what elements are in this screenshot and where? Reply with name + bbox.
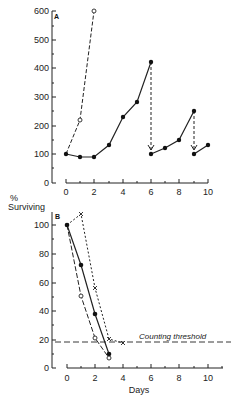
b-ylabel-surviving: Surviving [8, 202, 45, 212]
b-x-tick-4: 4 [120, 373, 125, 383]
figure: 600 500 400 300 200 100 0 0 2 4 6 [0, 0, 231, 397]
panel-b-label: B [55, 213, 60, 220]
b-y-tick-0: 0 [44, 363, 49, 373]
a-y-tick-100: 100 [34, 149, 49, 159]
a-y-tick-300: 300 [34, 92, 49, 102]
a-arrows [148, 62, 197, 150]
a-y-tick-400: 400 [34, 63, 49, 73]
a-series-filled-line-1 [66, 62, 151, 157]
a-x-tick-6: 6 [148, 187, 153, 197]
b-cross-markers [79, 212, 125, 345]
a-filled-markers [64, 60, 210, 159]
b-y-tick-60: 60 [39, 278, 49, 288]
b-x-tick-10: 10 [203, 373, 213, 383]
b-y-tick-40: 40 [39, 306, 49, 316]
b-xlabel-days: Days [129, 385, 150, 395]
b-x-tick-2: 2 [92, 373, 97, 383]
panel-b: % Surviving 100 80 60 40 20 0 [8, 193, 231, 395]
panel-a-y-tick-labels: 600 500 400 300 200 100 0 [34, 6, 49, 188]
b-series-filled-line [67, 225, 109, 354]
a-x-tick-10: 10 [203, 187, 213, 197]
b-y-tick-80: 80 [39, 249, 49, 259]
counting-threshold-label: Counting threshold [139, 332, 207, 341]
a-series-open-line [66, 11, 94, 154]
b-series-cross-line [67, 214, 123, 343]
a-x-tick-0: 0 [63, 187, 68, 197]
panel-a: 600 500 400 300 200 100 0 0 2 4 6 [34, 6, 213, 197]
a-x-tick-8: 8 [176, 187, 181, 197]
panel-b-y-ticks [52, 225, 56, 368]
b-x-tick-8: 8 [176, 373, 181, 383]
b-y-tick-100: 100 [34, 220, 49, 230]
panel-a-label: A [54, 13, 59, 20]
a-y-tick-0: 0 [44, 178, 49, 188]
panel-a-x-tick-labels: 0 2 4 6 8 10 [63, 187, 213, 197]
a-series-filled-line-2 [151, 111, 194, 154]
panel-b-x-ticks [67, 364, 222, 368]
a-x-tick-2: 2 [91, 187, 96, 197]
a-y-tick-200: 200 [34, 121, 49, 131]
panel-a-x-ticks [66, 179, 208, 183]
b-y-tick-20: 20 [39, 335, 49, 345]
panel-b-x-tick-labels: 0 2 4 6 8 10 [64, 373, 213, 383]
panel-b-y-tick-labels: 100 80 60 40 20 0 [34, 220, 49, 373]
a-y-tick-500: 500 [34, 35, 49, 45]
b-x-tick-0: 0 [64, 373, 69, 383]
a-x-tick-4: 4 [120, 187, 125, 197]
b-x-tick-6: 6 [148, 373, 153, 383]
panel-a-y-ticks [52, 11, 56, 183]
a-y-tick-600: 600 [34, 6, 49, 16]
